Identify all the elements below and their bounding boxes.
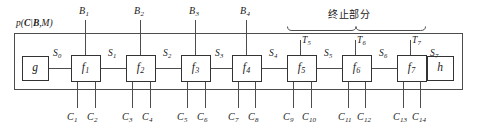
- output-label-C11-base: C: [338, 111, 345, 122]
- node-label-f6-base: f: [353, 61, 356, 73]
- termination-label-T7-base: T: [412, 35, 417, 45]
- output-label-C10-base: C: [302, 111, 309, 122]
- state-label-S3: S3: [215, 49, 223, 59]
- output-label-C11: C11: [338, 112, 351, 122]
- output-label-C3-base: C: [122, 111, 129, 122]
- state-label-S0-subscript: 0: [58, 52, 61, 59]
- node-label-f3-base: f: [192, 61, 195, 73]
- input-label-B2-subscript: 2: [140, 10, 144, 18]
- node-label-f7: f7: [408, 62, 416, 74]
- plate-label-close: ): [50, 18, 53, 28]
- output-label-C9-base: C: [283, 111, 290, 122]
- output-label-C14: C14: [412, 112, 426, 122]
- state-label-S5-subscript: 5: [329, 52, 332, 59]
- state-label-S1: S1: [108, 49, 116, 59]
- state-label-S0: S0: [53, 49, 61, 59]
- output-label-C2-subscript: 2: [94, 116, 98, 124]
- node-label-f2-subscript: 2: [140, 66, 144, 75]
- output-label-C10: C10: [302, 112, 316, 122]
- output-label-C1-subscript: 1: [74, 116, 78, 124]
- output-label-C13: C13: [393, 112, 407, 122]
- output-label-C7-subscript: 7: [235, 116, 239, 124]
- termination-brace: [288, 27, 426, 31]
- input-label-B3-subscript: 3: [195, 10, 199, 18]
- output-label-C8-base: C: [248, 111, 255, 122]
- output-label-C10-subscript: 10: [309, 116, 316, 124]
- output-label-C5-subscript: 5: [184, 116, 188, 124]
- node-label-f3: f3: [192, 62, 200, 74]
- output-label-C12-base: C: [357, 111, 364, 122]
- output-label-C3-subscript: 3: [129, 116, 133, 124]
- diagram-vector-layer: [0, 0, 478, 129]
- input-label-B1: B1: [79, 6, 89, 16]
- output-label-C12: C12: [357, 112, 371, 122]
- node-label-f4-subscript: 4: [246, 66, 250, 75]
- node-label-f6: f6: [353, 62, 361, 74]
- output-label-C5-base: C: [177, 111, 184, 122]
- node-label-f5-subscript: 5: [301, 66, 305, 75]
- plate-label-m: M: [42, 18, 50, 28]
- output-label-C13-base: C: [393, 111, 400, 122]
- plate-label: p(C|B,M): [16, 19, 53, 29]
- node-label-f4: f4: [243, 62, 251, 74]
- output-label-C6-subscript: 6: [204, 116, 208, 124]
- output-label-C1: C1: [67, 112, 77, 122]
- termination-label-T5: T5: [302, 36, 311, 46]
- node-label-f2-base: f: [137, 61, 140, 73]
- figure-canvas: p(C|B,M) 终止部分 ghf1f2f3f4f5f6f7S0S1S2S3S4…: [0, 0, 478, 129]
- output-label-C11-subscript: 11: [345, 116, 351, 124]
- input-label-B4-subscript: 4: [246, 10, 250, 18]
- output-label-C4-subscript: 4: [149, 116, 153, 124]
- output-label-C7-base: C: [228, 111, 235, 122]
- node-label-f2: f2: [137, 62, 145, 74]
- node-label-g-base: g: [32, 61, 38, 73]
- node-label-f6-subscript: 6: [356, 66, 360, 75]
- output-label-C9-subscript: 9: [290, 116, 294, 124]
- output-label-C4: C4: [142, 112, 152, 122]
- termination-label-T7: T7: [412, 36, 421, 46]
- output-label-C12-subscript: 12: [364, 116, 371, 124]
- output-label-C2-base: C: [87, 111, 94, 122]
- node-label-f7-base: f: [408, 61, 411, 73]
- output-label-C6-base: C: [197, 111, 204, 122]
- node-label-f1-subscript: 1: [85, 66, 89, 75]
- output-label-C2: C2: [87, 112, 97, 122]
- output-label-C6: C6: [197, 112, 207, 122]
- node-label-f5-base: f: [298, 61, 301, 73]
- input-label-B3: B3: [189, 6, 199, 16]
- output-label-C8-subscript: 8: [255, 116, 259, 124]
- state-label-S6-subscript: 6: [384, 52, 387, 59]
- output-label-C14-subscript: 14: [419, 116, 426, 124]
- output-label-C14-base: C: [412, 111, 419, 122]
- state-label-S2: S2: [163, 49, 171, 59]
- input-label-B4: B4: [240, 6, 250, 16]
- node-label-f1: f1: [82, 62, 90, 74]
- state-label-S6: S6: [379, 49, 387, 59]
- node-label-f7-subscript: 7: [411, 66, 415, 75]
- termination-label-T7-subscript: 7: [418, 39, 421, 46]
- termination-annotation-label: 终止部分: [328, 6, 370, 21]
- output-label-C9: C9: [283, 112, 293, 122]
- output-label-C7: C7: [228, 112, 238, 122]
- state-label-S4-subscript: 4: [274, 52, 277, 59]
- input-label-B2: B2: [134, 6, 144, 16]
- state-label-S1-subscript: 1: [113, 52, 116, 59]
- node-label-f5: f5: [298, 62, 306, 74]
- node-label-f1-base: f: [82, 61, 85, 73]
- termination-label-T6-base: T: [357, 35, 362, 45]
- node-label-f3-subscript: 3: [195, 66, 199, 75]
- state-label-S7: S7: [430, 49, 438, 59]
- state-label-S5: S5: [324, 49, 332, 59]
- node-label-h: h: [437, 62, 443, 74]
- state-label-S3-subscript: 3: [220, 52, 223, 59]
- output-label-C1-base: C: [67, 111, 74, 122]
- termination-label-T5-base: T: [302, 35, 307, 45]
- output-label-C5: C5: [177, 112, 187, 122]
- plate-label-p: p(: [16, 18, 24, 28]
- termination-label-T5-subscript: 5: [308, 39, 311, 46]
- state-label-S7-subscript: 7: [435, 52, 438, 59]
- node-label-g: g: [32, 62, 38, 74]
- output-label-C4-base: C: [142, 111, 149, 122]
- termination-label-T6: T6: [357, 36, 366, 46]
- output-label-C3: C3: [122, 112, 132, 122]
